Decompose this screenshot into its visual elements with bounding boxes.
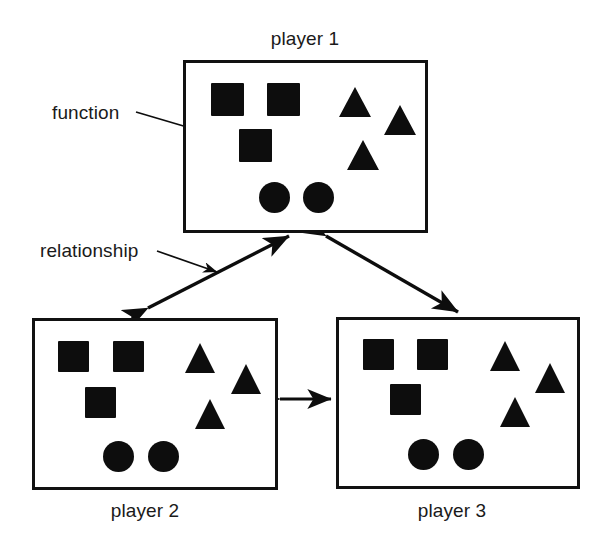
diagram-canvas: function relationship player 1 player 2 bbox=[0, 0, 610, 545]
connector-player1-player2 bbox=[148, 236, 289, 308]
function-triangle[interactable] bbox=[195, 399, 225, 429]
function-triangle[interactable] bbox=[535, 363, 565, 393]
function-circle[interactable] bbox=[453, 439, 484, 470]
player2-box[interactable] bbox=[32, 318, 278, 490]
player1-box[interactable] bbox=[183, 60, 428, 233]
function-triangle[interactable] bbox=[185, 343, 215, 373]
function-triangle[interactable] bbox=[347, 140, 379, 170]
function-square[interactable] bbox=[267, 83, 300, 116]
function-circle[interactable] bbox=[148, 441, 179, 472]
function-square[interactable] bbox=[390, 384, 421, 415]
function-triangle[interactable] bbox=[490, 341, 520, 371]
function-square[interactable] bbox=[417, 339, 448, 370]
player3-title: player 3 bbox=[402, 500, 502, 522]
connector-player1-player3 bbox=[326, 236, 458, 312]
function-triangle[interactable] bbox=[500, 397, 530, 427]
function-triangle[interactable] bbox=[384, 105, 416, 135]
function-triangle[interactable] bbox=[339, 87, 371, 117]
player1-title: player 1 bbox=[255, 28, 355, 50]
function-circle[interactable] bbox=[408, 439, 439, 470]
function-square[interactable] bbox=[85, 387, 116, 418]
function-square[interactable] bbox=[211, 83, 244, 116]
function-circle[interactable] bbox=[259, 182, 290, 213]
annotation-label-relationship: relationship bbox=[40, 240, 138, 262]
function-square[interactable] bbox=[363, 339, 394, 370]
function-square[interactable] bbox=[113, 341, 144, 372]
function-triangle[interactable] bbox=[231, 364, 261, 394]
function-circle[interactable] bbox=[303, 182, 334, 213]
annotation-label-function: function bbox=[52, 102, 119, 124]
function-circle[interactable] bbox=[103, 441, 134, 472]
function-square[interactable] bbox=[239, 129, 272, 162]
player3-box[interactable] bbox=[336, 317, 580, 489]
callout-arrow-relationship bbox=[157, 251, 217, 272]
function-square[interactable] bbox=[58, 341, 89, 372]
player2-title: player 2 bbox=[95, 500, 195, 522]
